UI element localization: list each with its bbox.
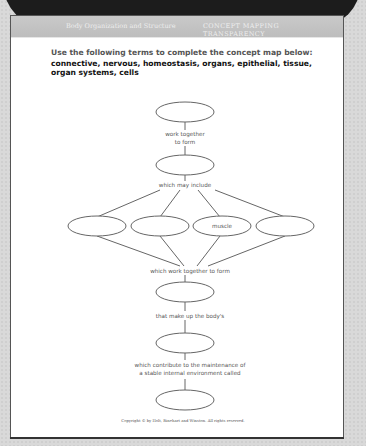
concept-node-2 <box>156 155 214 175</box>
concept-node-3d <box>256 216 314 236</box>
connector <box>198 190 220 217</box>
concept-node-3b <box>131 216 189 236</box>
link-label-may-include: which may include <box>157 181 213 189</box>
node-label-muscle: muscle <box>212 223 232 229</box>
concept-map <box>0 0 366 446</box>
concept-node-1 <box>156 102 214 122</box>
connector <box>97 236 180 266</box>
link-label-work-together-to-form: which work together to form <box>148 267 232 275</box>
connector <box>208 236 285 266</box>
link-label-make-up: that make up the body's <box>154 312 226 320</box>
connector <box>160 190 180 217</box>
connector <box>215 190 285 217</box>
connector <box>97 190 160 217</box>
concept-node-4 <box>156 282 214 302</box>
link-label-contribute: which contribute to the maintenance of a… <box>133 361 248 377</box>
link-label-work-together: work together to form <box>163 130 206 146</box>
copyright-notice: Copyright © by Holt, Rinehart and Winsto… <box>0 418 366 423</box>
connector <box>160 236 184 266</box>
concept-node-3a <box>68 216 126 236</box>
connector <box>197 236 220 266</box>
concept-node-6 <box>156 390 214 410</box>
concept-node-5 <box>156 333 214 353</box>
page-bottom-border <box>10 437 344 439</box>
